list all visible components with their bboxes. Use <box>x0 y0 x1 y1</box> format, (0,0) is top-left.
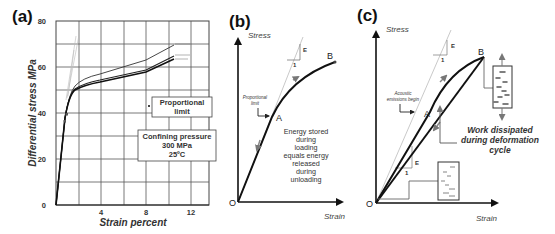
panel-b-loading-arrow <box>293 77 298 80</box>
panel-c: (c) Stress Strain O E 1 E 1 A B Acoustic… <box>357 6 539 223</box>
panel-c-acoustic-arrow <box>400 104 414 112</box>
x-tick-8: 8 <box>144 208 148 217</box>
figure: (a) 80 60 40 20 0 4 8 12 <box>0 0 555 234</box>
y-tick-80: 80 <box>38 17 46 26</box>
panel-c-loading-arrow <box>440 76 446 82</box>
panel-c-point-a: A <box>424 109 430 119</box>
panel-b-x-label: Strain <box>324 212 345 221</box>
svg-text:cycle: cycle <box>489 145 511 155</box>
y-axis-title: Differential stress MPa <box>27 59 38 167</box>
y-tick-0: 0 <box>42 201 46 210</box>
panel-c-acoustic-line1: Acoustic <box>393 91 412 96</box>
panel-b-label: (b) <box>229 12 251 31</box>
prop-limit-line2: limit <box>174 107 190 116</box>
svg-text:during deformation: during deformation <box>461 135 539 145</box>
panel-b-point-b: B <box>327 51 333 61</box>
panel-c-x-label: Strain <box>476 214 497 223</box>
conditions-line1: Confining pressure <box>143 132 212 141</box>
panel-c-origin: O <box>366 199 373 209</box>
y-tick-60: 60 <box>38 63 46 72</box>
panel-b-point-a: A <box>276 113 282 123</box>
panel-b-modulus: E <box>303 47 307 53</box>
panel-c-work-note: Work dissipated during deformation cycle <box>461 125 539 155</box>
conditions-line2: 300 MPa <box>162 141 193 150</box>
panel-a: (a) 80 60 40 20 0 4 8 12 <box>12 7 216 228</box>
panel-a-curves <box>56 45 174 205</box>
x-tick-4: 4 <box>99 208 104 217</box>
panel-c-y-label: Stress <box>386 25 409 34</box>
y-tick-20: 20 <box>38 155 46 164</box>
panel-b: (b) Stress Strain O E 1 A B Proportional… <box>229 12 345 221</box>
panel-b-y-label: Stress <box>248 31 271 40</box>
prop-limit-line1: Proportional <box>160 98 205 107</box>
panel-b-point-b-marker <box>334 61 337 64</box>
panel-b-origin: O <box>229 198 236 208</box>
conditions-line3: 25ºC <box>169 150 186 159</box>
svg-text:unloading: unloading <box>290 175 321 184</box>
panel-a-label: (a) <box>12 7 33 26</box>
panel-b-prop-limit-arrow <box>258 108 269 116</box>
panel-b-slope-triangle <box>287 44 300 60</box>
panel-c-modulus-upper: E <box>451 43 455 49</box>
proportional-limit-legend: Proportional limit <box>148 97 212 117</box>
y-tick-40: 40 <box>38 109 46 118</box>
panel-c-point-b: B <box>478 47 484 57</box>
x-axis-title: Strain percent <box>99 217 167 228</box>
curve-1 <box>56 45 174 205</box>
panel-c-unit-lower: 1 <box>405 170 409 176</box>
curve-end-labels <box>175 44 190 59</box>
panel-c-slope-triangle-upper <box>433 40 447 55</box>
panel-b-energy-note: Energy stored during loading equals ener… <box>283 127 329 184</box>
svg-text:Work dissipated: Work dissipated <box>467 125 533 135</box>
panel-c-modulus-lower: E <box>415 160 419 166</box>
panel-c-acoustic-line2: emissions begin <box>387 97 420 102</box>
conditions-box: Confining pressure 300 MPa 25ºC <box>138 130 216 161</box>
panel-b-prop-limit-line2: limit <box>251 101 260 106</box>
panel-c-label: (c) <box>357 6 378 25</box>
x-tick-12: 12 <box>187 208 195 217</box>
panel-b-prop-limit-line1: Proportional <box>243 95 268 100</box>
panel-c-unit-upper: 1 <box>441 57 445 63</box>
cracked-sample-icon <box>484 55 512 119</box>
panel-b-unit: 1 <box>293 62 297 68</box>
